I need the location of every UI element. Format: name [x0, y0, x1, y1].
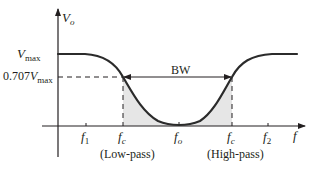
half-power-level-label: 0.707Vmax	[3, 69, 53, 85]
bandwidth-label: BW	[171, 63, 191, 77]
low-pass-shaded-region	[123, 77, 179, 126]
frequency-response-diagram: Vo Vmax 0.707Vmax BW f1 fc fo fc f2 f (L…	[0, 0, 314, 173]
low-pass-label: (Low-pass)	[100, 147, 155, 161]
fc-low-label: fc	[118, 129, 126, 146]
high-pass-shaded-region	[179, 77, 232, 126]
fo-label: fo	[174, 129, 183, 146]
y-axis-label: Vo	[62, 10, 75, 27]
high-pass-label: (High-pass)	[207, 147, 264, 161]
f2-label: f2	[263, 129, 271, 146]
f1-label: f1	[81, 129, 89, 146]
vmax-label: Vmax	[17, 46, 41, 63]
x-axis-label: f	[293, 128, 299, 143]
fc-high-label: fc	[227, 129, 235, 146]
